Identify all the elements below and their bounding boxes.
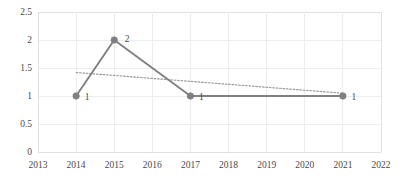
x-axis-tick-label: 2014 (67, 160, 86, 170)
data-point-label: 1 (199, 92, 204, 102)
x-axis-tick-label: 2017 (181, 160, 200, 170)
x-axis-tick-label: 2013 (29, 160, 48, 170)
data-point-label: 2 (125, 34, 130, 44)
y-axis-tick-label: 1 (27, 91, 32, 101)
y-axis-tick-label: 0 (27, 147, 32, 157)
y-axis-tick-label: 2 (27, 35, 32, 45)
y-axis-tick-label: 0.5 (20, 119, 32, 129)
x-axis-tick-label: 2022 (372, 160, 391, 170)
line-chart: 2.521.510.502013201420152016201720182019… (0, 0, 400, 182)
data-point-marker[interactable] (187, 93, 193, 99)
y-axis-tick-label: 2.5 (20, 7, 32, 17)
x-axis-tick-label: 2019 (257, 160, 276, 170)
x-axis-tick-label: 2015 (105, 160, 124, 170)
y-axis-tick-label: 1.5 (20, 63, 32, 73)
data-point-label: 1 (352, 92, 357, 102)
chart-canvas: 2.521.510.502013201420152016201720182019… (0, 0, 400, 182)
trendline (76, 72, 343, 93)
data-point-marker[interactable] (111, 37, 117, 43)
data-point-marker[interactable] (73, 93, 79, 99)
data-point-marker[interactable] (340, 93, 346, 99)
x-axis-tick-label: 2016 (143, 160, 162, 170)
x-axis-tick-label: 2018 (219, 160, 238, 170)
data-point-label: 1 (85, 92, 90, 102)
x-axis-tick-label: 2021 (333, 160, 352, 170)
x-axis-tick-label: 2020 (295, 160, 314, 170)
